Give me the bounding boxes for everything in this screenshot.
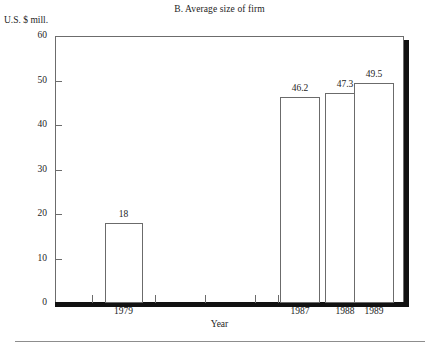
- y-tick-label: 60: [19, 31, 47, 40]
- x-tick-label: 1987: [277, 306, 323, 316]
- y-tick-mark: [55, 36, 62, 37]
- x-axis-label: Year: [0, 319, 439, 329]
- chart-title: B. Average size of firm: [0, 4, 439, 14]
- y-tick-mark: [55, 81, 62, 82]
- y-tick-label: 50: [19, 76, 47, 85]
- y-tick-mark: [55, 214, 62, 215]
- chart-figure: B. Average size of firm U.S. $ mill. 010…: [0, 0, 439, 351]
- y-tick-label: 40: [19, 120, 47, 129]
- bar-value-label: 18: [94, 209, 154, 219]
- bar-value-label: 49.5: [344, 69, 404, 79]
- y-tick-mark: [55, 125, 62, 126]
- x-tick-mark: [278, 295, 279, 303]
- y-tick-label: 30: [19, 165, 47, 174]
- x-tick-mark: [155, 295, 156, 303]
- bar: [105, 223, 143, 303]
- bar: [280, 97, 320, 303]
- y-tick-label: 0: [19, 298, 47, 307]
- plot-shadow-right: [404, 40, 409, 307]
- y-tick-label: 20: [19, 209, 47, 218]
- x-tick-mark: [255, 295, 256, 303]
- x-tick-label: 1979: [101, 306, 147, 316]
- footer-rule: [15, 341, 425, 342]
- x-tick-label: 1989: [351, 306, 397, 316]
- y-tick-mark: [55, 170, 62, 171]
- x-tick-mark: [205, 295, 206, 303]
- y-tick-label: 10: [19, 254, 47, 263]
- y-tick-mark: [55, 259, 62, 260]
- x-tick-mark: [92, 295, 93, 303]
- y-axis-label: U.S. $ mill.: [4, 15, 48, 25]
- bar: [354, 83, 394, 303]
